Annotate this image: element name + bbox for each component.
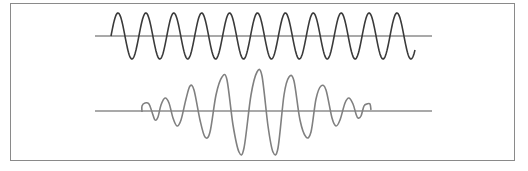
bottom-wave-packet <box>142 69 371 155</box>
waveform-diagram <box>0 0 528 171</box>
